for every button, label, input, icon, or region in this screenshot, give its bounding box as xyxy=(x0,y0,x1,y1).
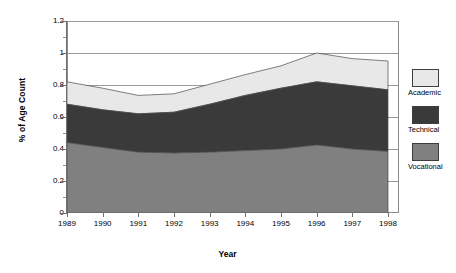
legend-label-vocational: Vocational xyxy=(408,162,456,172)
x-tick-mark xyxy=(245,213,246,217)
x-tick-label: 1997 xyxy=(332,219,372,228)
legend-swatch-vocational xyxy=(412,143,439,161)
x-tick-mark xyxy=(352,213,353,217)
x-tick-label: 1989 xyxy=(47,219,87,228)
y-tick-label: 0.6 xyxy=(30,113,64,121)
x-tick-label: 1994 xyxy=(225,219,265,228)
chart-container: % of Age Count 00.20.40.60.811.2 1989199… xyxy=(0,0,456,273)
y-tick-label: 0.4 xyxy=(30,145,64,153)
x-tick-label: 1991 xyxy=(118,219,158,228)
legend-swatch-academic xyxy=(412,69,439,87)
y-axis-title: % of Age Count xyxy=(17,50,27,170)
y-tick-label: 1.2 xyxy=(30,17,64,25)
y-axis-line xyxy=(66,21,67,213)
legend-swatch-technical xyxy=(412,106,439,124)
x-tick-mark xyxy=(138,213,139,217)
x-tick-label: 1993 xyxy=(190,219,230,228)
x-tick-mark xyxy=(281,213,282,217)
x-tick-mark xyxy=(67,213,68,217)
x-axis-title: Year xyxy=(67,249,388,259)
legend: Academic Technical Vocational xyxy=(408,69,456,180)
legend-item-academic: Academic xyxy=(408,69,456,98)
y-tick-label: 1 xyxy=(30,49,64,57)
x-tick-mark xyxy=(317,213,318,217)
x-tick-label: 1998 xyxy=(368,219,408,228)
y-tick-label: 0.8 xyxy=(30,81,64,89)
stacked-area-plot xyxy=(67,21,399,213)
x-tick-mark xyxy=(388,213,389,217)
x-tick-label: 1992 xyxy=(154,219,194,228)
y-tick-label: 0.2 xyxy=(30,177,64,185)
y-tick-label: 0 xyxy=(30,209,64,217)
x-tick-label: 1995 xyxy=(261,219,301,228)
x-tick-label: 1996 xyxy=(297,219,337,228)
legend-label-technical: Technical xyxy=(408,125,456,135)
legend-item-technical: Technical xyxy=(408,106,456,135)
x-tick-mark xyxy=(174,213,175,217)
x-tick-mark xyxy=(210,213,211,217)
x-tick-label: 1990 xyxy=(83,219,123,228)
legend-label-academic: Academic xyxy=(408,88,456,98)
legend-item-vocational: Vocational xyxy=(408,143,456,172)
area-series-vocational xyxy=(67,143,388,213)
x-tick-mark xyxy=(103,213,104,217)
